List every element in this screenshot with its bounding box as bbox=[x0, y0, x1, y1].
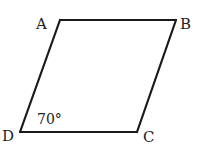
parallelogram-diagram: A B C D 70° bbox=[0, 0, 200, 152]
vertex-label-a: A bbox=[35, 15, 47, 33]
angle-label-d: 70° bbox=[37, 111, 62, 127]
vertex-label-c: C bbox=[143, 128, 154, 146]
vertex-label-b: B bbox=[180, 15, 191, 33]
vertex-label-d: D bbox=[2, 127, 14, 145]
edge-bc bbox=[137, 20, 176, 132]
